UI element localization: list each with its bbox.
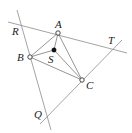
point-S — [52, 48, 56, 52]
point-A — [56, 31, 60, 35]
label-B: B — [17, 51, 24, 63]
label-T: T — [108, 34, 115, 46]
segment-AB — [30, 33, 58, 57]
point-B — [28, 55, 32, 59]
label-Q: Q — [34, 108, 42, 120]
geometry-diagram: A B C S R T Q — [0, 0, 132, 133]
label-S: S — [48, 53, 54, 65]
label-C: C — [86, 79, 94, 91]
label-R: R — [11, 25, 19, 37]
label-A: A — [54, 18, 62, 30]
point-C — [80, 78, 84, 82]
segment-SC — [54, 50, 82, 80]
segment-BC — [30, 57, 82, 80]
